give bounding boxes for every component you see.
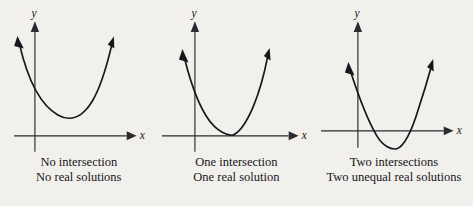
- x-axis: [321, 126, 454, 135]
- quadratic-intersection-figure: x y No intersection No real solutions x: [0, 0, 473, 206]
- plot-one-intersection: x y: [158, 0, 316, 160]
- panel-one-intersection: x y One intersection One real solution: [158, 0, 316, 206]
- panel-no-intersection: x y No intersection No real solutions: [0, 0, 158, 206]
- caption-line-2: One real solution: [158, 170, 316, 185]
- panel-caption: Two intersections Two unequal real solut…: [315, 155, 473, 185]
- y-axis: [31, 21, 39, 152]
- x-axis: [14, 131, 137, 140]
- caption-line-1: One intersection: [158, 155, 316, 170]
- panel-caption: One intersection One real solution: [158, 155, 316, 185]
- x-axis-label: x: [139, 129, 145, 141]
- panel-two-intersections: x y Two intersections Two unequal real s…: [315, 0, 473, 206]
- parabola-curve: [179, 48, 271, 135]
- y-axis-label: y: [190, 7, 197, 20]
- caption-line-2: Two unequal real solutions: [315, 170, 473, 185]
- x-axis-label: x: [300, 129, 306, 141]
- parabola-curve: [14, 36, 114, 118]
- caption-line-1: No intersection: [0, 155, 158, 170]
- x-axis-label: x: [456, 124, 462, 136]
- panel-caption: No intersection No real solutions: [0, 155, 158, 185]
- caption-line-2: No real solutions: [0, 170, 158, 185]
- y-axis-label: y: [30, 7, 37, 20]
- caption-line-1: Two intersections: [315, 155, 473, 170]
- y-axis-label: y: [354, 7, 361, 20]
- plot-no-intersection: x y: [0, 0, 158, 160]
- plot-two-intersections: x y: [315, 0, 473, 160]
